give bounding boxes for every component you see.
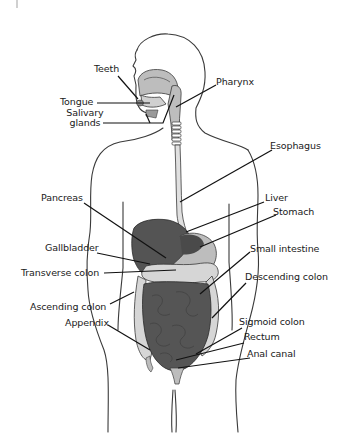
label-gallbladder: Gallbladder (45, 243, 99, 253)
label-liver: Liver (265, 193, 288, 203)
rectum (170, 368, 184, 384)
label-anal-canal: Anal canal (247, 349, 296, 359)
label-pancreas: Pancreas (41, 193, 83, 203)
appendix (146, 356, 153, 372)
label-small-intestine: Small intestine (250, 244, 319, 254)
label-rectum: Rectum (244, 332, 280, 342)
label-appendix: Appendix (65, 318, 109, 328)
label-salivary-glands-line2: glands (65, 118, 105, 128)
digestive-system-illustration (0, 0, 351, 435)
small-intestine (143, 282, 212, 371)
esophagus (175, 145, 188, 236)
label-pharynx: Pharynx (216, 77, 254, 87)
label-teeth: Teeth (94, 64, 119, 74)
label-sigmoid-colon: Sigmoid colon (239, 317, 305, 327)
label-esophagus: Esophagus (270, 141, 321, 151)
label-ascending-colon: Ascending colon (30, 302, 106, 312)
label-tongue: Tongue (60, 97, 93, 107)
label-stomach: Stomach (273, 207, 314, 217)
mouth-region (137, 69, 182, 145)
label-descending-colon: Descending colon (245, 272, 328, 282)
label-transverse-colon: Transverse colon (21, 268, 99, 278)
transverse-colon (142, 263, 219, 283)
